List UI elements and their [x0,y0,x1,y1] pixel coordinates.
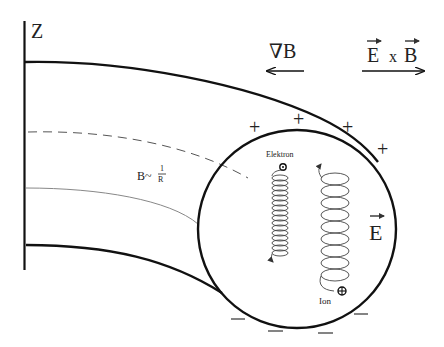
field-relation-numerator: 1 [160,164,164,173]
field-relation-denominator: R [158,175,164,184]
z-axis-label: Z [31,20,43,42]
lower-field-line [26,245,222,293]
ion-helix [319,164,349,291]
plasma-drift-diagram: Z ∇B E x B B~ 1 R + + + + Elektron [0,0,444,347]
thin-field-line [26,188,198,224]
positive-charge: + [342,116,353,138]
electron-helix [271,170,288,262]
ion-label: Ion [319,296,331,306]
positive-charge: + [249,116,260,138]
positive-charge: + [293,108,304,130]
e-field-label: E [369,220,382,245]
grad-b-label: ∇B [269,40,296,62]
ion-symbol [338,287,346,295]
exb-e-label: E [367,44,379,66]
upper-field-line [25,62,378,162]
exb-x-label: x [389,48,397,65]
plasma-cross-section [198,130,396,328]
electron-label: Elektron [266,150,294,159]
exb-b-label: B [404,44,417,66]
field-relation-prefix: B~ [137,169,152,183]
positive-charge: + [377,138,388,160]
electron-dot [282,166,284,168]
